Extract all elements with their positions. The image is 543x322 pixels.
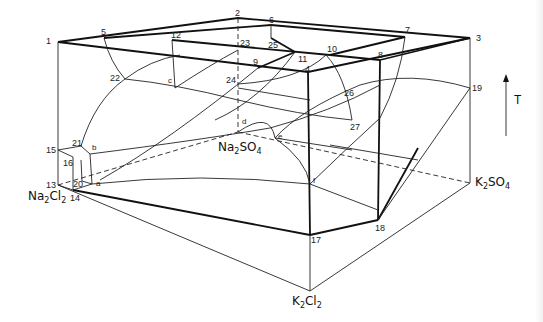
component-label-k2so4: K2SO4 [475,175,510,191]
point-label-11: 11 [298,54,307,64]
letter-label-a: a [96,179,101,188]
letter-label-d: d [242,117,246,126]
point-label-19: 19 [472,83,482,93]
point-label-12: 12 [171,30,181,40]
point-label-6: 6 [269,15,274,25]
point-label-15: 15 [46,145,56,155]
point-label-22: 22 [110,73,120,83]
component-label-na2so4: Na2SO4 [218,140,262,156]
point-label-5: 5 [101,27,106,37]
letter-labels: a b c d e f [92,76,316,188]
point-label-23: 23 [240,38,250,48]
component-labels: Na2SO4 K2SO4 K2Cl2 Na2Cl2 [28,140,510,310]
point-label-25: 25 [268,40,278,50]
point-label-21: 21 [72,138,82,148]
point-label-3: 3 [476,33,481,43]
point-label-2: 2 [235,8,240,18]
point-label-24: 24 [226,75,236,85]
point-label-9: 9 [253,57,258,67]
point-label-4: 4 [305,64,310,74]
phase-curves [81,37,470,210]
point-label-18: 18 [375,223,385,233]
component-label-k2cl2: K2Cl2 [292,294,322,310]
point-labels: 1 2 3 4 5 6 7 8 9 10 11 12 13 14 15 16 1… [46,8,482,245]
component-label-na2cl2: Na2Cl2 [28,189,66,205]
point-label-27: 27 [350,122,360,132]
letter-label-b: b [92,143,97,152]
point-label-8: 8 [378,50,383,60]
point-label-1: 1 [46,36,51,46]
point-label-16: 16 [63,158,73,168]
prism-base [58,88,470,291]
letter-label-e: e [278,132,283,141]
temperature-axis[interactable]: T [503,74,522,136]
letter-label-c: c [168,76,172,85]
arrow-up-icon [503,74,509,82]
phase-diagram: T 1 2 3 4 5 6 7 8 9 10 11 12 13 14 15 16… [0,0,543,322]
point-label-10: 10 [327,44,337,54]
point-label-17: 17 [311,235,321,245]
axis-label-t: T [514,93,522,107]
point-label-14: 14 [70,193,80,203]
letter-label-f: f [313,176,316,185]
point-label-7: 7 [405,25,410,35]
point-label-20: 20 [73,179,83,189]
point-label-26: 26 [344,88,354,98]
